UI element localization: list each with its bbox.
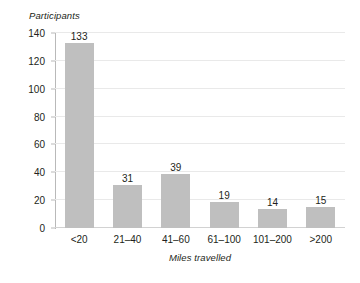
y-axis-tick-labels: 020406080100120140 bbox=[0, 0, 55, 283]
y-axis-tick-label: 100 bbox=[28, 83, 45, 94]
y-axis-tick-label: 80 bbox=[34, 111, 45, 122]
bar-value-label: 133 bbox=[55, 31, 103, 42]
y-axis-tick-label: 60 bbox=[34, 139, 45, 150]
bar-value-label: 31 bbox=[103, 173, 151, 184]
bar-value-label: 14 bbox=[248, 197, 296, 208]
bar-slot: 14 bbox=[248, 33, 296, 228]
bar bbox=[258, 209, 287, 229]
bar-value-label: 19 bbox=[200, 190, 248, 201]
x-axis-tick-label: 41–60 bbox=[152, 234, 200, 245]
y-axis-tick-label: 0 bbox=[39, 223, 45, 234]
x-axis-tick-label: 61–100 bbox=[200, 234, 248, 245]
x-axis-tick-label: >200 bbox=[297, 234, 345, 245]
x-axis-title: Miles travelled bbox=[55, 252, 345, 263]
x-axis-tick-labels: <2021–4041–6061–100101–200>200 bbox=[55, 234, 345, 245]
bar-chart: Participants 020406080100120140 13331391… bbox=[0, 0, 360, 283]
bar-slot: 39 bbox=[152, 33, 200, 228]
bar-slot: 19 bbox=[200, 33, 248, 228]
bar bbox=[65, 43, 94, 228]
bar-slot: 15 bbox=[297, 33, 345, 228]
bar-value-label: 15 bbox=[297, 195, 345, 206]
bar-series: 1333139191415 bbox=[55, 33, 345, 228]
x-axis-tick-label: 21–40 bbox=[103, 234, 151, 245]
bar-slot: 133 bbox=[55, 33, 103, 228]
bar bbox=[161, 174, 190, 228]
y-axis-tick-label: 140 bbox=[28, 28, 45, 39]
bar-value-label: 39 bbox=[152, 162, 200, 173]
bar-slot: 31 bbox=[103, 33, 151, 228]
bar bbox=[306, 207, 335, 228]
x-axis-tick-label: <20 bbox=[55, 234, 103, 245]
y-axis-tick-label: 20 bbox=[34, 195, 45, 206]
y-axis-tick-label: 120 bbox=[28, 55, 45, 66]
plot-area: 1333139191415 bbox=[55, 33, 345, 228]
bar bbox=[210, 202, 239, 228]
y-axis-tick-label: 40 bbox=[34, 167, 45, 178]
x-axis-tick-label: 101–200 bbox=[248, 234, 296, 245]
bar bbox=[113, 185, 142, 228]
